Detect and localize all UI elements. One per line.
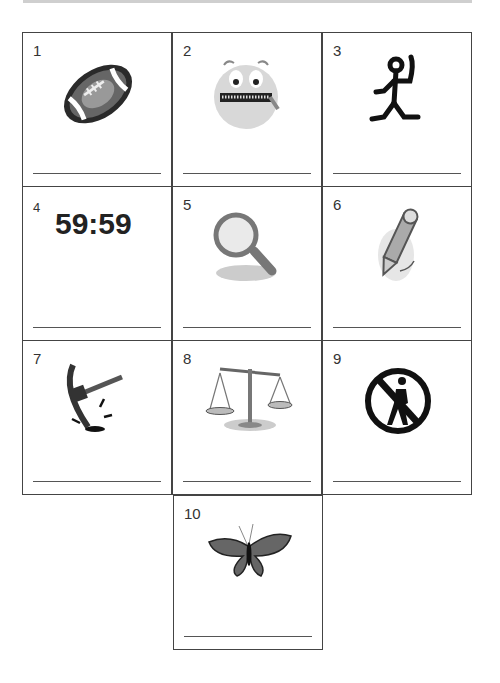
zipped-mouth-face-icon xyxy=(198,51,298,136)
top-rule xyxy=(23,0,472,3)
worksheet-cell-7: 7 xyxy=(22,340,172,495)
worksheet-cell-5: 5 xyxy=(172,186,322,341)
worksheet-cell-9: 9 xyxy=(322,340,472,495)
stick-figure-icon xyxy=(348,51,448,136)
magnifying-glass-icon xyxy=(198,205,298,290)
pencil-icon xyxy=(348,205,448,290)
answer-line[interactable] xyxy=(183,173,311,174)
butterfly-icon xyxy=(199,514,299,599)
worksheet-cell-8: 8 xyxy=(172,340,322,495)
answer-line[interactable] xyxy=(184,636,312,637)
balance-scale-icon xyxy=(198,359,298,444)
worksheet-cell-10: 10 xyxy=(173,495,323,650)
answer-line[interactable] xyxy=(333,481,461,482)
no-pedestrian-icon xyxy=(348,359,448,444)
answer-line[interactable] xyxy=(183,327,311,328)
item-number: 3 xyxy=(333,42,341,59)
answer-line[interactable] xyxy=(33,327,161,328)
worksheet-cell-3: 3 xyxy=(322,32,472,187)
item-number: 1 xyxy=(33,42,41,59)
item-number: 6 xyxy=(333,196,341,213)
answer-line[interactable] xyxy=(333,173,461,174)
worksheet-cell-2: 2 xyxy=(172,32,322,187)
answer-line[interactable] xyxy=(333,327,461,328)
answer-line[interactable] xyxy=(33,173,161,174)
answer-line[interactable] xyxy=(33,481,161,482)
item-number: 7 xyxy=(33,350,41,367)
football-icon xyxy=(48,51,148,136)
worksheet-cell-1: 1 xyxy=(22,32,172,187)
item-number: 4 xyxy=(33,200,40,215)
worksheet-cell-4: 4 59:59 xyxy=(22,186,172,341)
item-number: 8 xyxy=(183,350,191,367)
answer-line[interactable] xyxy=(183,481,311,482)
clock-text: 59:59 xyxy=(55,207,132,241)
pickaxe-icon xyxy=(48,359,148,444)
worksheet-cell-6: 6 xyxy=(322,186,472,341)
item-number: 5 xyxy=(183,196,191,213)
item-number: 9 xyxy=(333,350,341,367)
item-number: 2 xyxy=(183,42,191,59)
